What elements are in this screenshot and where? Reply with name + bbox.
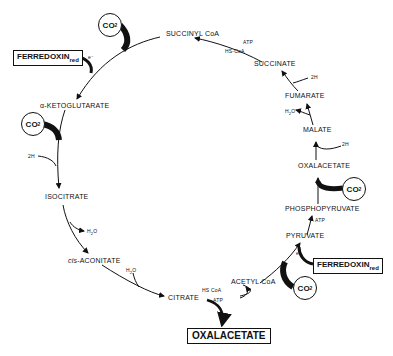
aconitate-text: -ACONITATE (77, 257, 120, 264)
co2-input-ketoglutarate: CO2 (21, 112, 45, 136)
cis-aconitate-label: cis-ACONITATE (68, 257, 121, 264)
ferredoxin-sub: red (369, 265, 378, 271)
co2-sub: 2 (310, 285, 313, 291)
succinyl-coa-label: SUCCINYL CoA (166, 30, 219, 37)
2h-label-fumarate: 2H (311, 75, 318, 80)
citrate-label: CITRATE (168, 294, 199, 301)
2h-label-oxalacetate: 2H (342, 142, 349, 147)
malate-label: MALATE (303, 126, 332, 133)
co2-text: CO (347, 185, 359, 194)
cis-prefix: cis (68, 257, 77, 264)
hscoa-label-citrate: HS CoA (202, 288, 221, 293)
electron-label-2: e⁻ (296, 251, 302, 256)
co2-text: CO (103, 21, 115, 30)
h2o-label-aconitate: H2O (126, 268, 136, 275)
fumarate-label: FUMARATE (285, 92, 325, 99)
co2-sub: 2 (38, 121, 41, 127)
acetyl-coa-label: ACETYL CoA (231, 278, 276, 285)
co2-input-phosphopyruvate: CO2 (342, 177, 366, 201)
co2-input-acetyl-coa: CO2 (293, 276, 317, 300)
ferredoxin-text: FERREDOXIN (17, 52, 69, 61)
oxalacetate-product-box: OXALACETATE (187, 328, 271, 344)
h2o-o: O (132, 267, 136, 273)
h2o-o: O (93, 228, 97, 234)
co2-sub: 2 (115, 22, 118, 28)
phosphopyruvate-label: PHOSPHOPYRUVATE (285, 205, 360, 212)
co2-input-succinyl: CO2 (98, 13, 122, 37)
atp-label-succinyl: ATP (243, 40, 253, 45)
h2o-label-isocitrate: H2O (87, 229, 97, 236)
co2-sub: 2 (359, 186, 362, 192)
h2o-o: O (291, 108, 295, 114)
co2-text: CO (298, 284, 310, 293)
succinate-label: SUCCINATE (254, 60, 296, 67)
co2-text: CO (26, 120, 38, 129)
atp-label-citrate: ATP (213, 298, 223, 303)
atp-label-pyruvate: ATP (315, 218, 325, 223)
h2o-label-malate: H2O (285, 109, 295, 116)
isocitrate-label: ISOCITRATE (45, 193, 88, 200)
ferredoxin-box-bottom: FERREDOXINred (313, 258, 383, 274)
alpha-ketoglutarate-label: α-KETOGLUTARATE (40, 102, 109, 109)
ferredoxin-box-top: FERREDOXINred (13, 50, 83, 66)
pyruvate-label: PYRUVATE (286, 232, 324, 239)
hscoa-label-succinyl: HS-CoA (225, 49, 245, 54)
reductive-tca-cycle-diagram: SUCCINYL CoA SUCCINATE FUMARATE MALATE O… (0, 0, 393, 356)
electron-label-1: e⁻ (88, 55, 94, 60)
oxalacetate-label: OXALACETATE (298, 162, 350, 169)
ferredoxin-sub: red (69, 57, 78, 63)
2h-label-ketoglutarate: 2H (28, 154, 35, 159)
ferredoxin-text: FERREDOXIN (317, 260, 369, 269)
